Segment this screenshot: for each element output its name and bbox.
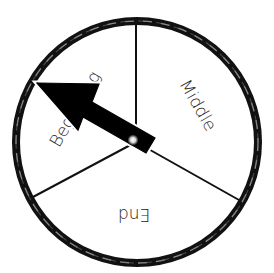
pivot-icon [128, 135, 139, 146]
section-label-end: End [118, 205, 150, 225]
spinner-wheel: Beginning Middle End [0, 0, 274, 273]
